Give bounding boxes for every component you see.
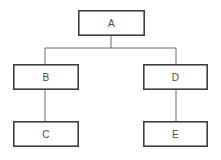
node-box-a[interactable] [79,11,144,35]
node-box-b[interactable] [14,65,78,89]
diagram-canvas-svg [0,0,221,160]
edge-group-a-children [45,36,176,64]
node-box-e[interactable] [144,122,207,146]
tree-diagram: A B D C E [0,0,221,160]
node-box-c[interactable] [14,122,78,146]
node-box-d[interactable] [144,65,207,89]
